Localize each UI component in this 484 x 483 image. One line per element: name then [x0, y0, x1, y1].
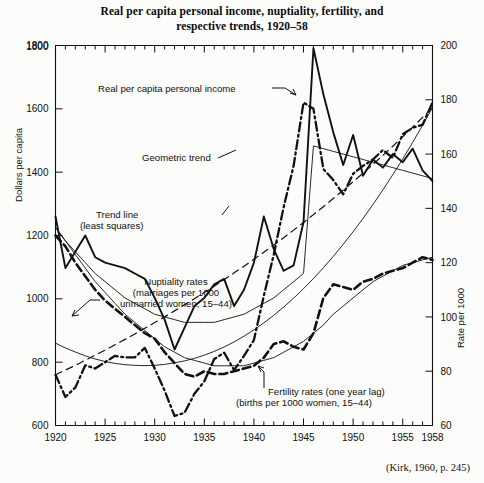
series-line-6: [56, 227, 433, 365]
annotation-fertility-1: Fertility rates (one year lag): [268, 386, 385, 397]
axis-x-tick-labels: 192019251930193519401945195019551958: [44, 432, 444, 443]
geometric-trend-leader: [218, 150, 236, 158]
tick-label-x: 1920: [44, 432, 67, 443]
tick-label-x: 1945: [292, 432, 315, 443]
tick-label-x: 1935: [193, 432, 216, 443]
tick-label-left: 600: [32, 420, 49, 431]
series-line-4: [56, 146, 433, 322]
annotation-income: Real per capita personal income: [98, 83, 236, 94]
annotation-fertility-2: (births per 1000 women, 15–44): [236, 397, 372, 408]
annotation-geometric-trend: Geometric trend: [142, 152, 211, 163]
tick-label-right: 120: [441, 257, 458, 268]
annotation-nuptiality-3: unmarried women, 15–44): [120, 298, 232, 309]
tick-label-left: 1200: [26, 230, 49, 241]
axis-right-ticks: [426, 46, 433, 426]
tick-label-x: 1950: [342, 432, 365, 443]
tick-label-right: 180: [441, 94, 458, 105]
trendline-leader: [222, 206, 229, 215]
data-series-layer: [56, 48, 433, 416]
series-line-1: [56, 108, 433, 375]
series-line-2: [56, 108, 433, 366]
annotation-trend-line-1: Trend line: [96, 209, 138, 220]
tick-label-x: 1955: [392, 432, 415, 443]
annotation-leaders: [72, 88, 296, 388]
tick-label-x: 1940: [243, 432, 266, 443]
nuptiality-leader: [72, 300, 100, 316]
tick-label-right: 140: [441, 203, 458, 214]
axis-left-title: Dollars per capita: [13, 127, 24, 202]
source-note: (Kirk, 1960, p. 245): [386, 462, 470, 473]
annotation-nuptiality-1: Nuptiality rates: [144, 276, 208, 287]
tick-label-right: 60: [441, 420, 453, 431]
axis-right-tick-labels: 2001801601401201008060: [441, 40, 458, 431]
fertility-leader: [258, 366, 264, 388]
chart-figure: Real per capita personal income, nuptial…: [0, 0, 484, 483]
tick-label-right: 200: [441, 40, 458, 51]
tick-label-left: 1600: [26, 103, 49, 114]
tick-label-left: 800: [32, 357, 49, 368]
annotation-trend-line-2: (least squares): [80, 220, 143, 231]
tick-label-left: 1400: [26, 167, 49, 178]
tick-label-right: 80: [441, 366, 453, 377]
chart-canvas: 180016001400120010008006001800 200180160…: [0, 0, 484, 483]
axis-bottom-ticks: [56, 419, 433, 426]
tick-label-x: 1930: [144, 432, 167, 443]
tick-label-left: 1000: [26, 293, 49, 304]
axis-right-title: Rate per 1000: [455, 288, 466, 348]
tick-label-left-top: 1800: [26, 41, 49, 52]
axis-top-ticks: [56, 46, 433, 53]
annotation-nuptiality-2: (marriages per 1000: [133, 287, 219, 298]
tick-label-x: 1925: [94, 432, 117, 443]
tick-label-x: 1958: [421, 432, 444, 443]
tick-label-right: 160: [441, 149, 458, 160]
axis-left-tick-labels: 180016001400120010008006001800: [26, 40, 49, 431]
